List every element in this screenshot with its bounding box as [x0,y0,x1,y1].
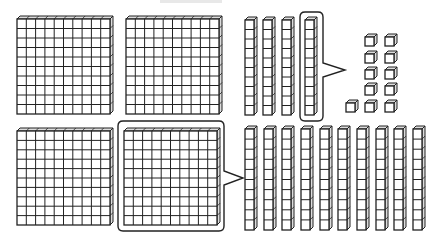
tens-rod-top-2 [263,17,275,115]
ones-unit-cube-4 [385,51,397,63]
tens-rod-bottom-2 [264,126,276,230]
ones-unit-cube-11 [385,100,397,112]
ones-unit-cube-2 [385,34,397,46]
tens-rod-bottom-9 [394,126,406,230]
tens-rod-bottom-5 [320,126,332,230]
tens-rod-bottom-1 [245,126,257,230]
base-ten-blocks-diagram [0,0,436,240]
ones-unit-cube-9 [346,100,358,112]
ones-unit-cube-8 [385,83,397,95]
ones-unit-cube-10 [365,100,377,112]
hundreds-flat-top-1 [17,16,113,114]
ones-unit-cube-6 [385,67,397,79]
hundreds-flat-bottom-2 [124,128,220,225]
hundreds-flat-bottom-1 [17,128,113,225]
tens-rod-bottom-3 [282,126,294,230]
tens-rod-bottom-10 [413,126,425,230]
tens-rod-top-1 [245,17,257,115]
ones-unit-cube-1 [365,34,377,46]
ones-unit-cube-3 [365,51,377,63]
tens-rod-bottom-4 [301,126,313,230]
ones-unit-cube-7 [365,83,377,95]
hundreds-flat-top-2 [126,16,222,114]
tens-rod-bottom-7 [357,126,369,230]
tens-rod-bottom-8 [376,126,388,230]
tens-rod-top-4 [305,17,317,115]
tens-rod-bottom-6 [338,126,350,230]
tens-rod-top-3 [282,17,294,115]
ones-unit-cube-5 [365,67,377,79]
